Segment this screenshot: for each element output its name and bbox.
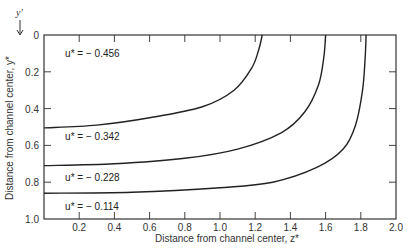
curve-label: u* = − 0.114 [65, 201, 119, 212]
plot-frame [44, 35, 396, 219]
x-tick-label: 1.8 [354, 222, 368, 233]
curve-labels: u* = − 0.456u* = − 0.342u* = − 0.228u* =… [65, 48, 120, 212]
y-tick-label: 1.0 [25, 214, 39, 225]
x-tick-label: 2.0 [389, 222, 403, 233]
y-tick-label: 0.6 [25, 140, 39, 151]
curve-label: u* = − 0.342 [65, 131, 120, 142]
y-tick-label: 0 [33, 30, 39, 41]
x-tick-label: 0.4 [107, 222, 121, 233]
y-tick-label: 0.4 [25, 104, 39, 115]
chart: 0.20.40.60.81.01.21.41.61.82.000.20.40.6… [0, 0, 416, 250]
x-tick-label: 0.8 [178, 222, 192, 233]
x-tick-label: 1.2 [248, 222, 262, 233]
y-axis-title: Distance from channel center, y* [4, 56, 15, 200]
y-tick-label: 0.8 [25, 177, 39, 188]
curve-label: u* = − 0.228 [65, 172, 120, 183]
x-tick-label: 1.6 [319, 222, 333, 233]
x-axis-title: Distance from channel center, z* [155, 233, 299, 244]
x-tick-label: 0.6 [143, 222, 157, 233]
x-tick-label: 0.2 [72, 222, 86, 233]
curve-label: u* = − 0.456 [65, 48, 120, 59]
x-tick-label: 1.0 [213, 222, 227, 233]
x-tick-label: 1.4 [283, 222, 297, 233]
down-arrow-icon [17, 20, 23, 35]
y-prime-label: y' [15, 7, 23, 18]
y-tick-label: 0.2 [25, 67, 39, 78]
